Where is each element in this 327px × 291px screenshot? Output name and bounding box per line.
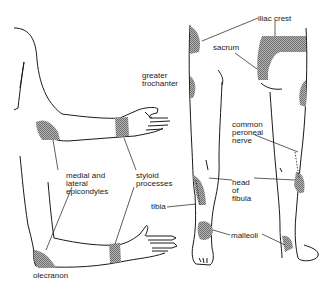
elbow-pressure-area: [36, 120, 60, 140]
sacrum-iliac-pressure-area: [257, 36, 306, 80]
back-fibula-pressure-area: [294, 172, 305, 193]
back-hip-pressure-area: [299, 80, 306, 107]
label-olecranon: olecranon: [33, 272, 68, 280]
lower-wrist-pressure-area: [109, 243, 121, 263]
front-ankle-pressure-area: [198, 221, 213, 240]
label-sacrum: sacrum: [213, 44, 239, 52]
anatomy-illustration: [0, 0, 327, 291]
label-iliac-crest: iliac crest: [258, 15, 291, 23]
anatomy-pressure-points-diagram: iliac crest sacrum greater trochanter co…: [0, 0, 327, 291]
back-ankle-pressure-area: [282, 236, 293, 252]
label-head-of-fibula: head of fibula: [232, 179, 251, 203]
label-tibia: tibia: [151, 203, 166, 211]
front-hip-pressure-area: [190, 26, 200, 54]
olecranon-pressure-area: [34, 250, 56, 268]
label-styloid-processes: styloid processes: [136, 172, 172, 188]
wrist-pressure-area: [115, 117, 129, 137]
label-medial-lateral-epicondyles: medial and lateral epicondyles: [66, 172, 108, 196]
greater-trochanter-pressure-area: [190, 76, 195, 98]
label-malleoli: malleoli: [231, 232, 258, 240]
label-common-peroneal-nerve: common peroneal nerve: [232, 121, 263, 145]
label-greater-trochanter: greater trochanter: [142, 72, 178, 88]
